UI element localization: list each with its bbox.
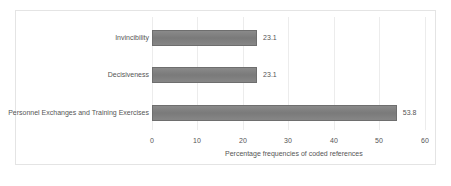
bar-personnel-exchanges — [152, 105, 397, 121]
value-label: 23.1 — [263, 34, 277, 41]
bar-decisiveness — [152, 67, 257, 83]
x-tick-label: 20 — [239, 137, 247, 144]
x-tick-label: 40 — [330, 137, 338, 144]
x-tick-label: 60 — [421, 137, 429, 144]
value-label: 23.1 — [263, 71, 277, 78]
x-tick-label: 10 — [193, 137, 201, 144]
value-label: 53.8 — [403, 109, 417, 116]
x-tick-label: 30 — [284, 137, 292, 144]
gridline-60 — [425, 17, 426, 130]
category-label: Decisiveness — [108, 71, 149, 78]
x-tick-label: 50 — [375, 137, 383, 144]
category-label: Invincibility — [115, 34, 149, 41]
x-tick-label: 0 — [150, 137, 154, 144]
bar-invincibility — [152, 30, 257, 46]
x-axis-title: Percentage frequencies of coded referenc… — [225, 150, 363, 157]
category-label: Personnel Exchanges and Training Exercis… — [8, 109, 149, 116]
